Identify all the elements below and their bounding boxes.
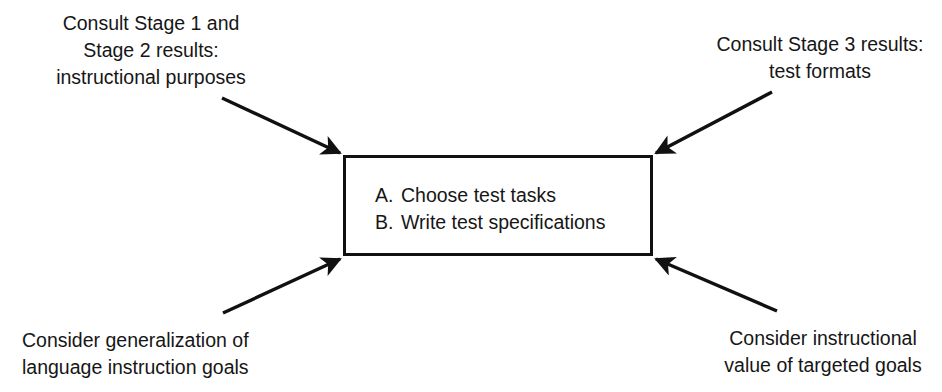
- arrow-bottom-left-to-box: [223, 259, 340, 313]
- process-box-step-text: Write test specifications: [401, 209, 605, 236]
- process-box-step: A. Choose test tasks: [375, 182, 605, 209]
- annotation-top-right-line-2: test formats: [706, 58, 934, 85]
- annotation-top-left-line-2: Stage 2 results:: [36, 37, 266, 64]
- process-box-step: B. Write test specifications: [375, 209, 605, 236]
- process-box-step-marker: B.: [375, 209, 401, 236]
- annotation-top-left-line-3: instructional purposes: [36, 64, 266, 91]
- arrow-top-left-to-box: [222, 98, 340, 153]
- process-box-step-marker: A.: [375, 182, 401, 209]
- annotation-bottom-left-line-2: language instruction goals: [22, 354, 322, 381]
- arrow-top-right-to-box: [656, 92, 772, 153]
- diagram-canvas: Consult Stage 1 and Stage 2 results: ins…: [0, 0, 942, 392]
- annotation-top-right-line-1: Consult Stage 3 results:: [706, 31, 934, 58]
- annotation-top-left-line-1: Consult Stage 1 and: [36, 10, 266, 37]
- annotation-bottom-right-line-1: Consider instructional: [712, 325, 934, 352]
- process-box-step-list: A. Choose test tasks B. Write test speci…: [375, 182, 605, 236]
- annotation-bottom-right-line-2: value of targeted goals: [712, 352, 934, 379]
- arrow-bottom-right-to-box: [656, 259, 777, 311]
- process-box: A. Choose test tasks B. Write test speci…: [343, 155, 653, 256]
- annotation-bottom-right: Consider instructional value of targeted…: [712, 325, 934, 379]
- annotation-top-left: Consult Stage 1 and Stage 2 results: ins…: [36, 10, 266, 91]
- annotation-top-right: Consult Stage 3 results: test formats: [706, 31, 934, 85]
- process-box-step-text: Choose test tasks: [401, 182, 556, 209]
- annotation-bottom-left-line-1: Consider generalization of: [22, 327, 322, 354]
- annotation-bottom-left: Consider generalization of language inst…: [22, 327, 322, 381]
